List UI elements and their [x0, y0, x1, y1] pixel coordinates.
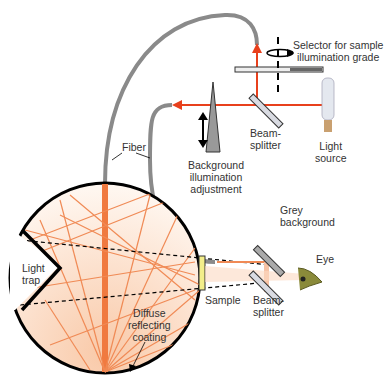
integrating-sphere-diagram: Selector for sample illumination grade B…	[0, 0, 391, 376]
label-grey-background: Grey background	[280, 204, 335, 228]
label-beamsplitter-bottom: Beam- splitter	[253, 294, 284, 318]
eye-icon	[298, 268, 322, 290]
label-coating: Diffuse reflecting coating	[128, 307, 171, 343]
label-selector: Selector for sample illumination grade	[293, 39, 383, 63]
sample	[199, 256, 205, 290]
background-wedge	[206, 82, 220, 152]
label-light-source: Light source	[315, 140, 347, 164]
label-sample: Sample	[205, 294, 241, 306]
label-beamsplitter-top: Beam- splitter	[250, 127, 281, 151]
label-fiber: Fiber	[122, 141, 146, 153]
label-eye: Eye	[316, 253, 334, 265]
label-light-trap: Light trap	[22, 262, 45, 286]
label-background-adjust: Background illumination adjustment	[188, 159, 244, 195]
light-source-bulb	[322, 78, 334, 132]
beamsplitter-top	[249, 94, 283, 128]
